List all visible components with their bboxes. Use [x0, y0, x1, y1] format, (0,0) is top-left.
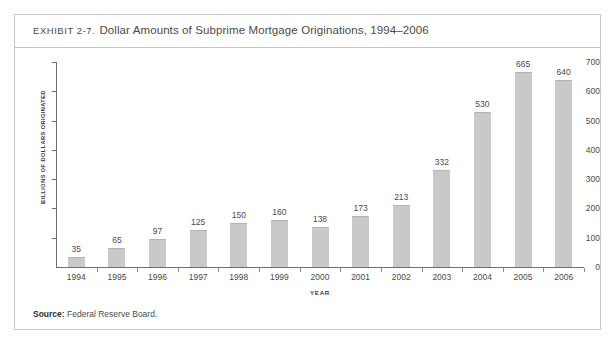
x-tick-label-2003: 2003 — [422, 272, 462, 282]
bar-2001 — [352, 216, 369, 267]
y-tick-mark — [52, 238, 56, 239]
bar-2006 — [555, 80, 572, 267]
y-axis-line — [56, 62, 57, 267]
y-tick-mark — [52, 150, 56, 151]
y-axis-title: BILLIONS OF DOLLARS ORIGINATED — [40, 67, 46, 227]
x-tick-label-2000: 2000 — [300, 272, 340, 282]
bar-1994 — [68, 257, 85, 267]
y-tick-mark — [52, 62, 56, 63]
bar-value-1999: 160 — [259, 207, 299, 217]
exhibit-title-bar: EXHIBIT 2-7.Dollar Amounts of Subprime M… — [15, 15, 600, 48]
bar-value-2003: 332 — [422, 157, 462, 167]
exhibit-frame: EXHIBIT 2-7.Dollar Amounts of Subprime M… — [14, 14, 601, 330]
y-tick-mark — [52, 208, 56, 209]
x-tick-label-2001: 2001 — [341, 272, 381, 282]
bar-2000 — [312, 227, 329, 267]
bar-value-1997: 125 — [178, 217, 218, 227]
chart-plot-area: BILLIONS OF DOLLARS ORIGINATED 010020030… — [15, 48, 600, 329]
y-tick-mark — [52, 121, 56, 122]
bar-2002 — [393, 205, 410, 267]
x-tick-label-1996: 1996 — [138, 272, 178, 282]
x-tick-label-1994: 1994 — [56, 272, 96, 282]
bar-value-2001: 173 — [341, 203, 381, 213]
exhibit-number-label: EXHIBIT 2-7. — [33, 25, 95, 36]
source-label: Source: — [33, 309, 65, 319]
source-text: Federal Reserve Board. — [67, 309, 157, 319]
bar-1996 — [149, 239, 166, 267]
x-axis-line — [56, 267, 584, 268]
page-title: EXHIBIT 2-7.Dollar Amounts of Subprime M… — [33, 24, 429, 36]
y-tick-mark — [52, 179, 56, 180]
x-tick-label-2005: 2005 — [503, 272, 543, 282]
x-tick-label-2004: 2004 — [462, 272, 502, 282]
bar-value-2004: 530 — [462, 99, 502, 109]
bar-1998 — [230, 223, 247, 267]
bar-value-2005: 665 — [503, 59, 543, 69]
bar-2004 — [474, 112, 491, 267]
bar-value-1994: 35 — [56, 244, 96, 254]
source-note: Source: Federal Reserve Board. — [33, 309, 157, 319]
y-tick-mark — [52, 91, 56, 92]
bar-2003 — [433, 170, 450, 267]
bar-value-1996: 97 — [138, 226, 178, 236]
x-tick-label-1997: 1997 — [178, 272, 218, 282]
exhibit-title-label: Dollar Amounts of Subprime Mortgage Orig… — [99, 24, 428, 36]
x-tick-label-1998: 1998 — [219, 272, 259, 282]
bar-value-2000: 138 — [300, 214, 340, 224]
bar-value-1995: 65 — [97, 235, 137, 245]
x-tick-label-1995: 1995 — [97, 272, 137, 282]
bar-1995 — [108, 248, 125, 267]
bar-value-2006: 640 — [544, 67, 584, 77]
bar-1997 — [190, 230, 207, 267]
x-tick-mark — [584, 268, 585, 272]
x-tick-label-2002: 2002 — [381, 272, 421, 282]
bar-value-2002: 213 — [381, 192, 421, 202]
x-tick-label-1999: 1999 — [259, 272, 299, 282]
bar-value-1998: 150 — [219, 210, 259, 220]
bar-1999 — [271, 220, 288, 267]
y-tick-label: 700 — [566, 57, 600, 67]
x-tick-label-2006: 2006 — [544, 272, 584, 282]
x-axis-title: YEAR — [56, 289, 584, 296]
bar-2005 — [515, 72, 532, 267]
